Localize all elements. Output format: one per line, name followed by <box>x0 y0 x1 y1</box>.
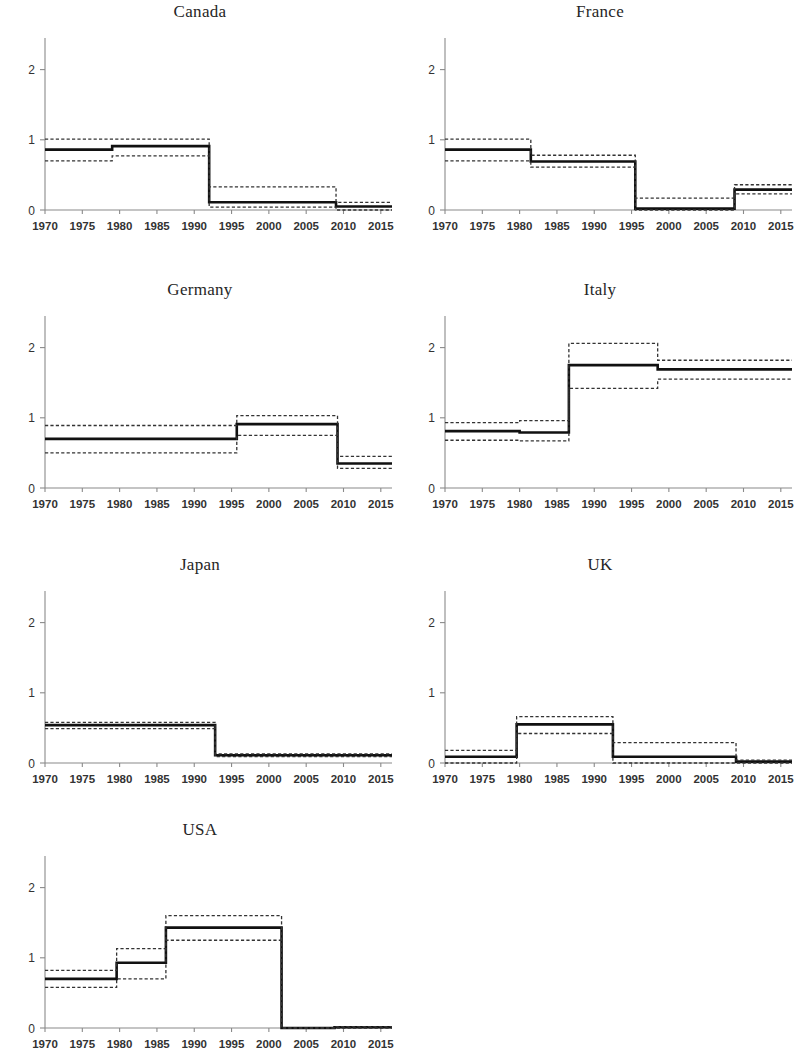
x-tick-label: 1980 <box>107 1038 133 1050</box>
y-tick-label: 2 <box>28 616 35 630</box>
x-tick-label: 2015 <box>368 220 394 232</box>
x-tick-label: 2015 <box>768 498 794 510</box>
series-upper-confidence-band <box>45 416 392 457</box>
panel-title: Canada <box>0 2 400 22</box>
x-tick-label: 1995 <box>219 498 245 510</box>
x-tick-label: 2015 <box>368 1038 394 1050</box>
x-tick-label: 1975 <box>70 498 96 510</box>
x-tick-label: 2015 <box>368 773 394 785</box>
chart-panel-italy: Italy01219701975198019851990199520002005… <box>400 278 800 543</box>
x-tick-label: 1990 <box>581 220 607 232</box>
plot-area: 0121970197519801985199019952000200520102… <box>400 583 800 818</box>
x-tick-label: 2000 <box>256 773 282 785</box>
x-tick-label: 1970 <box>432 773 458 785</box>
series-estimate <box>45 424 392 463</box>
series-upper-confidence-band <box>445 717 792 761</box>
y-tick-label: 0 <box>28 757 35 771</box>
x-tick-label: 1975 <box>470 773 496 785</box>
y-tick-label: 1 <box>28 951 35 965</box>
series-lower-confidence-band <box>445 734 792 763</box>
y-tick-label: 0 <box>28 204 35 218</box>
plot-area: 0121970197519801985199019952000200520102… <box>400 308 800 543</box>
y-tick-label: 2 <box>28 341 35 355</box>
y-tick-label: 1 <box>28 133 35 147</box>
x-tick-label: 2010 <box>331 498 357 510</box>
panel-title: Germany <box>0 280 400 300</box>
plot-area: 0121970197519801985199019952000200520102… <box>400 30 800 265</box>
x-tick-label: 1980 <box>507 498 533 510</box>
series-lower-confidence-band <box>445 161 792 210</box>
y-tick-label: 1 <box>428 411 435 425</box>
x-tick-label: 1990 <box>181 773 207 785</box>
y-tick-label: 0 <box>428 204 435 218</box>
x-tick-label: 2015 <box>768 220 794 232</box>
chart-panel-france: France0121970197519801985199019952000200… <box>400 0 800 265</box>
x-tick-label: 2010 <box>331 220 357 232</box>
plot-area: 0121970197519801985199019952000200520102… <box>0 308 400 543</box>
x-tick-label: 2000 <box>656 498 682 510</box>
x-tick-label: 1995 <box>219 773 245 785</box>
x-tick-label: 1990 <box>181 220 207 232</box>
x-tick-label: 1985 <box>144 498 170 510</box>
panel-title: UK <box>400 555 800 575</box>
x-tick-label: 1970 <box>32 773 58 785</box>
x-tick-label: 2010 <box>331 1038 357 1050</box>
x-tick-label: 1975 <box>470 498 496 510</box>
y-tick-label: 0 <box>428 482 435 496</box>
x-tick-label: 2015 <box>768 773 794 785</box>
panel-title: USA <box>0 820 400 840</box>
chart-panel-japan: Japan01219701975198019851990199520002005… <box>0 553 400 818</box>
series-estimate <box>445 150 792 209</box>
series-upper-confidence-band <box>445 343 792 422</box>
y-tick-label: 1 <box>428 686 435 700</box>
x-tick-label: 1980 <box>507 220 533 232</box>
x-tick-label: 1995 <box>619 498 645 510</box>
x-tick-label: 1990 <box>181 1038 207 1050</box>
x-tick-label: 1980 <box>107 220 133 232</box>
chart-panel-canada: Canada0121970197519801985199019952000200… <box>0 0 400 265</box>
x-tick-label: 1985 <box>144 1038 170 1050</box>
x-tick-label: 1975 <box>70 773 96 785</box>
x-tick-label: 1970 <box>32 498 58 510</box>
y-tick-label: 2 <box>428 63 435 77</box>
x-tick-label: 1990 <box>581 498 607 510</box>
x-tick-label: 1975 <box>470 220 496 232</box>
x-tick-label: 2010 <box>731 498 757 510</box>
y-tick-label: 2 <box>28 881 35 895</box>
x-tick-label: 1990 <box>581 773 607 785</box>
x-tick-label: 1970 <box>432 220 458 232</box>
x-tick-label: 1995 <box>619 220 645 232</box>
y-tick-label: 0 <box>428 757 435 771</box>
series-lower-confidence-band <box>45 729 392 757</box>
x-tick-label: 1970 <box>432 498 458 510</box>
x-tick-label: 1980 <box>107 773 133 785</box>
y-tick-label: 2 <box>428 616 435 630</box>
y-tick-label: 1 <box>28 411 35 425</box>
x-tick-label: 2005 <box>693 498 719 510</box>
series-upper-confidence-band <box>45 916 392 1028</box>
chart-panel-usa: USA0121970197519801985199019952000200520… <box>0 818 400 1059</box>
x-tick-label: 2005 <box>293 773 319 785</box>
series-estimate <box>45 928 392 1028</box>
x-tick-label: 1990 <box>181 498 207 510</box>
plot-area: 0121970197519801985199019952000200520102… <box>0 30 400 265</box>
x-tick-label: 1980 <box>107 498 133 510</box>
series-estimate <box>45 146 392 206</box>
x-tick-label: 2005 <box>293 498 319 510</box>
x-tick-label: 2010 <box>731 220 757 232</box>
y-tick-label: 2 <box>28 63 35 77</box>
x-tick-label: 2010 <box>731 773 757 785</box>
x-tick-label: 1985 <box>544 498 570 510</box>
panel-title: Japan <box>0 555 400 575</box>
x-tick-label: 2015 <box>368 498 394 510</box>
x-tick-label: 2010 <box>331 773 357 785</box>
x-tick-label: 1985 <box>144 220 170 232</box>
x-tick-label: 1995 <box>219 220 245 232</box>
x-tick-label: 2005 <box>293 220 319 232</box>
x-tick-label: 2000 <box>656 220 682 232</box>
series-upper-confidence-band <box>45 722 392 754</box>
panel-title: Italy <box>400 280 800 300</box>
y-tick-label: 2 <box>428 341 435 355</box>
y-tick-label: 0 <box>28 1022 35 1036</box>
series-estimate <box>45 725 392 755</box>
